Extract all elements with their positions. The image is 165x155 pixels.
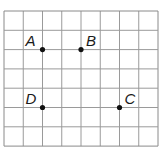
point-a <box>40 47 45 52</box>
point-b <box>78 47 83 52</box>
point-label-d: D <box>26 90 37 107</box>
point-c <box>117 105 122 110</box>
point-label-c: C <box>125 90 136 107</box>
point-label-a: A <box>25 32 36 49</box>
coordinate-grid: ABCD <box>0 0 165 155</box>
grid-points: ABCD <box>25 32 136 111</box>
point-label-b: B <box>86 32 96 49</box>
point-d <box>40 105 45 110</box>
